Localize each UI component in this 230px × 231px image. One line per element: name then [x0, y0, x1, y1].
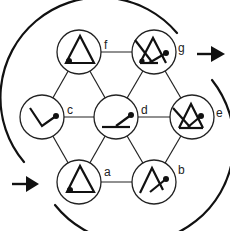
node-label-f: f: [104, 38, 108, 52]
node-label-e: e: [216, 106, 223, 120]
node-g: g: [132, 30, 185, 74]
node-label-b: b: [178, 163, 185, 177]
node-label-d: d: [141, 103, 148, 117]
node-e: e: [170, 95, 223, 139]
node-b: b: [132, 160, 185, 204]
output-arrow-icon: [197, 46, 225, 62]
node-label-a: a: [104, 165, 111, 179]
node-f: f: [57, 30, 108, 74]
node-label-c: c: [67, 103, 73, 117]
outer-arc-upper: [0, 0, 177, 162]
node-label-g: g: [178, 41, 185, 55]
state-graph-diagram: f g c d: [0, 0, 230, 231]
input-arrow-icon: [12, 176, 39, 192]
